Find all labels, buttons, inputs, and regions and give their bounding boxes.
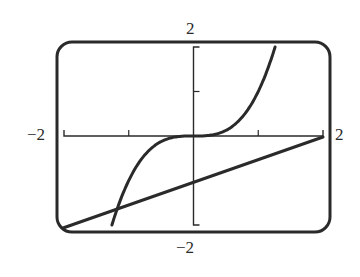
graphing-calculator-figure: 2 −2 −2 2 bbox=[0, 0, 360, 277]
y-min-label: −2 bbox=[176, 239, 194, 256]
y-max-label: 2 bbox=[186, 20, 195, 37]
plot-area bbox=[0, 0, 360, 277]
x-min-label: −2 bbox=[27, 126, 45, 143]
x-max-label: 2 bbox=[335, 126, 344, 143]
